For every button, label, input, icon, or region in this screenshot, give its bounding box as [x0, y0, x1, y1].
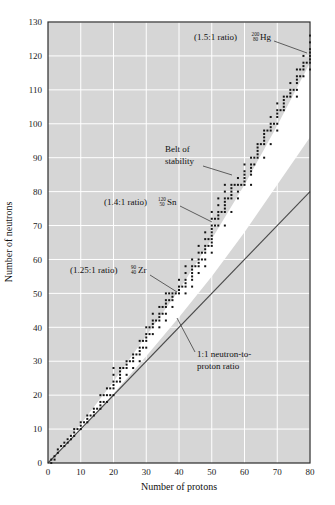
y-tick-label: 30: [33, 356, 43, 366]
x-tick-label: 50: [207, 467, 217, 477]
y-tick-label: 0: [38, 458, 43, 468]
annotation-ratio11-line2: proton ratio: [197, 361, 240, 371]
y-axis-title: Number of neutrons: [3, 202, 14, 283]
annotation-hg-symbol: Hg: [260, 32, 271, 42]
x-tick-label: 20: [109, 467, 119, 477]
y-tick-label: 120: [29, 51, 43, 61]
y-axis-tick-labels: 0102030405060708090100110120130: [29, 17, 43, 468]
y-tick-label: 70: [33, 221, 43, 231]
x-tick-label: 80: [306, 467, 316, 477]
annotation-belt-line1: Belt of: [165, 144, 190, 154]
x-tick-label: 40: [175, 467, 185, 477]
y-tick-label: 130: [29, 17, 43, 27]
y-tick-label: 60: [33, 255, 43, 265]
x-tick-label: 0: [46, 467, 51, 477]
annotation-ratio11-line1: 1:1 neutron-to-: [197, 349, 251, 359]
x-tick-label: 70: [273, 467, 283, 477]
y-tick-label: 10: [33, 424, 43, 434]
y-tick-label: 100: [29, 119, 43, 129]
belt-of-stability-figure: 01020304050607080 0102030405060708090100…: [0, 0, 335, 505]
nuclide-scatter-chart: 01020304050607080 0102030405060708090100…: [0, 0, 335, 505]
x-tick-label: 10: [76, 467, 86, 477]
annotation-sn-atomic-number: 50: [159, 201, 165, 207]
annotation-hg-atomic-number: 80: [253, 36, 259, 42]
y-tick-label: 50: [33, 289, 43, 299]
annotation-belt-line2: stability: [165, 156, 194, 166]
annotation-sn-ratio: (1.4:1 ratio): [104, 197, 147, 207]
y-tick-label: 90: [33, 153, 43, 163]
annotation-zr-ratio: (1.25:1 ratio): [70, 265, 118, 275]
annotation-zr-symbol: Zr: [138, 265, 147, 275]
y-tick-label: 80: [33, 187, 43, 197]
annotation-sn-symbol: Sn: [167, 197, 177, 207]
y-tick-label: 20: [33, 390, 43, 400]
x-tick-label: 60: [240, 467, 250, 477]
y-tick-label: 110: [29, 85, 43, 95]
y-tick-label: 40: [33, 323, 43, 333]
annotation-hg-ratio: (1.5:1 ratio): [194, 32, 237, 42]
annotation-zr-atomic-number: 40: [131, 269, 137, 275]
x-axis-title: Number of protons: [141, 481, 217, 492]
x-tick-label: 30: [142, 467, 152, 477]
x-axis-tick-labels: 01020304050607080: [46, 467, 315, 477]
